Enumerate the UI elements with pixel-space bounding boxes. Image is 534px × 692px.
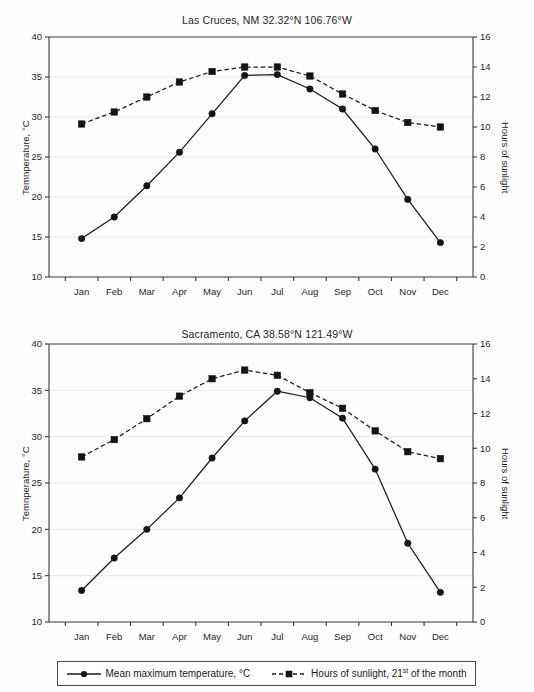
svg-text:20: 20 (31, 524, 42, 535)
svg-text:25: 25 (31, 151, 42, 162)
svg-text:16: 16 (480, 338, 491, 349)
legend-entry-temperature: Mean maximum temperature, °C (67, 669, 251, 679)
svg-text:Sep: Sep (334, 286, 351, 297)
legend-entry-sunlight: Hours of sunlight, 21st of the month (272, 669, 466, 679)
svg-text:20: 20 (31, 191, 42, 202)
svg-text:Jul: Jul (271, 286, 283, 297)
svg-text:10: 10 (31, 271, 42, 282)
svg-text:Jan: Jan (74, 286, 89, 297)
svg-text:Apr: Apr (172, 286, 187, 297)
svg-text:May: May (203, 631, 221, 642)
svg-text:12: 12 (480, 91, 491, 102)
svg-text:Aug: Aug (301, 631, 318, 642)
svg-text:May: May (203, 286, 221, 297)
svg-text:Jun: Jun (237, 631, 252, 642)
svg-text:10: 10 (480, 121, 491, 132)
svg-text:30: 30 (31, 431, 42, 442)
svg-text:Apr: Apr (172, 631, 187, 642)
svg-text:4: 4 (480, 211, 485, 222)
plot-area: 101520253035400246810121416JanFebMarAprM… (0, 0, 534, 320)
svg-text:Oct: Oct (368, 631, 383, 642)
svg-text:14: 14 (480, 61, 491, 72)
svg-text:35: 35 (31, 71, 42, 82)
svg-text:Sep: Sep (334, 631, 351, 642)
svg-text:Nov: Nov (399, 631, 416, 642)
svg-text:Feb: Feb (106, 286, 122, 297)
svg-text:40: 40 (31, 338, 42, 349)
svg-text:14: 14 (480, 373, 491, 384)
svg-text:25: 25 (31, 477, 42, 488)
legend-label-temperature: Mean maximum temperature, °C (106, 669, 251, 679)
svg-text:10: 10 (31, 616, 42, 627)
svg-text:6: 6 (480, 512, 485, 523)
svg-text:Aug: Aug (301, 286, 318, 297)
svg-text:Jan: Jan (74, 631, 89, 642)
chart-las-cruces: Las Cruces, NM 32.32°N 106.76°W Temnpera… (0, 0, 534, 320)
svg-text:30: 30 (31, 111, 42, 122)
svg-text:Jul: Jul (271, 631, 283, 642)
svg-text:Dec: Dec (432, 286, 449, 297)
svg-text:8: 8 (480, 477, 485, 488)
svg-text:40: 40 (31, 31, 42, 42)
svg-text:4: 4 (480, 547, 485, 558)
svg-text:Mar: Mar (139, 631, 155, 642)
svg-text:0: 0 (480, 271, 485, 282)
figure-canvas: Las Cruces, NM 32.32°N 106.76°W Temnpera… (0, 0, 534, 692)
legend-marker-square-dashed-icon (272, 669, 306, 679)
svg-text:Oct: Oct (368, 286, 383, 297)
svg-text:6: 6 (480, 181, 485, 192)
svg-text:2: 2 (480, 241, 485, 252)
svg-text:2: 2 (480, 582, 485, 593)
svg-text:35: 35 (31, 385, 42, 396)
svg-text:Mar: Mar (139, 286, 155, 297)
plot-area: 101520253035400246810121416JanFebMarAprM… (0, 318, 534, 648)
figure-legend: Mean maximum temperature, °C Hours of su… (57, 661, 476, 686)
svg-text:Dec: Dec (432, 631, 449, 642)
svg-text:8: 8 (480, 151, 485, 162)
svg-text:Jun: Jun (237, 286, 252, 297)
svg-text:15: 15 (31, 231, 42, 242)
svg-text:Nov: Nov (399, 286, 416, 297)
svg-text:10: 10 (480, 443, 491, 454)
chart-sacramento: Sacramento, CA 38.58°N 121.49°W Temnpera… (0, 318, 534, 648)
svg-text:0: 0 (480, 616, 485, 627)
svg-text:15: 15 (31, 570, 42, 581)
svg-text:12: 12 (480, 408, 491, 419)
legend-marker-circle-solid-icon (67, 669, 101, 679)
svg-text:16: 16 (480, 31, 491, 42)
legend-label-sunlight: Hours of sunlight, 21st of the month (311, 669, 466, 679)
svg-text:Feb: Feb (106, 631, 122, 642)
